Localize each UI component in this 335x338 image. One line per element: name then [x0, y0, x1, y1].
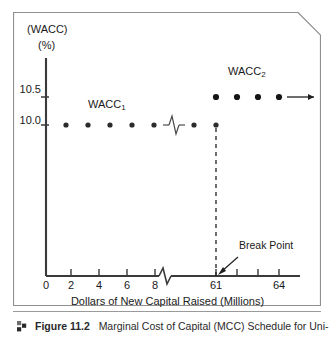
data-point [255, 94, 261, 100]
figure-caption-bar: Figure 11.2 Marginal Cost of Capital (MC… [13, 311, 321, 338]
y-axis-title-line2: (%) [38, 40, 55, 51]
figure-caption-label: Figure 11.2 [35, 320, 90, 332]
series-label-wacc2-text: WACC [228, 65, 261, 77]
break-point-annotation-label: Break Point [239, 240, 293, 251]
series-label-wacc2-subscript: 2 [261, 70, 265, 79]
data-point [151, 122, 156, 127]
figure-caption-body: Marginal Cost of Capital (MCC) Schedule … [99, 320, 329, 332]
series-label-wacc1-text: WACC [88, 98, 121, 110]
x-tick-label-6: 6 [116, 280, 138, 291]
x-tick-label-64: 64 [268, 280, 290, 291]
y-axis-title-line1: (WACC) [27, 24, 68, 35]
series-wacc2-points [213, 94, 282, 100]
series-label-wacc2: WACC2 [228, 66, 266, 77]
figure-caption-text: Figure 11.2 Marginal Cost of Capital (MC… [35, 320, 329, 332]
x-tick-label-8: 8 [144, 280, 166, 291]
x-tick-label-4: 4 [88, 280, 110, 291]
figure-container: (WACC) (%) 10.5 10.0 0 2 4 6 8 61 64 Dol… [0, 0, 335, 338]
y-tick-label-10-5: 10.5 [11, 84, 41, 95]
x-tick-label-61: 61 [205, 280, 227, 291]
data-point [107, 122, 112, 127]
data-point [191, 122, 196, 127]
data-point [213, 122, 218, 127]
data-point [129, 122, 134, 127]
data-point [63, 122, 68, 127]
y-tick-label-10-0: 10.0 [11, 115, 41, 126]
data-point [213, 94, 219, 100]
x-tick-label-0: 0 [35, 280, 57, 291]
data-point [276, 94, 282, 100]
x-axis-title: Dollars of New Capital Raised (Millions) [0, 296, 335, 307]
data-point [85, 122, 90, 127]
stacked-squares-icon [17, 321, 28, 332]
callout-arrow-icon [218, 257, 238, 275]
series-label-wacc1: WACC1 [88, 99, 126, 110]
data-point [234, 94, 240, 100]
series-break-squiggle-icon [163, 116, 185, 134]
x-tick-label-2: 2 [60, 280, 82, 291]
series-label-wacc1-subscript: 1 [121, 103, 125, 112]
right-arrow-icon [287, 94, 314, 100]
series-wacc1-points [63, 122, 218, 127]
